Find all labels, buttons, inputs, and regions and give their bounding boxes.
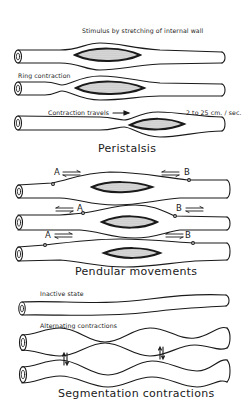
point-b-label: B <box>184 167 190 177</box>
peristalsis-tube-1 <box>15 43 226 70</box>
pendular-tube-1 <box>16 172 231 205</box>
speed-label: 2 to 25 cm. / sec. <box>186 109 242 116</box>
digestive-motility-diagram <box>0 0 250 402</box>
travel-direction-arrow-icon <box>113 111 129 115</box>
pendular-title: Pendular movements <box>75 265 197 278</box>
point-a-label: A <box>77 203 83 213</box>
inactive-state-label: Inactive state <box>40 290 84 297</box>
contraction-travels-label: Contraction travels <box>48 109 109 116</box>
segmentation-title: Segmentation contractions <box>58 387 214 400</box>
ring-contraction-label: Ring contraction <box>18 72 71 79</box>
point-a-label: A <box>45 230 51 240</box>
point-a-label: A <box>54 167 60 177</box>
point-b-label: B <box>185 230 191 240</box>
peristalsis-tube-2 <box>15 76 226 100</box>
point-b-label: B <box>176 203 182 213</box>
segmentation-tube-inactive <box>19 295 229 316</box>
peristalsis-title: Peristalsis <box>98 142 156 155</box>
alternating-contractions-label: Alternating contractions <box>40 322 117 329</box>
pendular-tube-3 <box>16 239 231 267</box>
segmentation-tube-alternating-2 <box>20 360 231 387</box>
stimulus-label: Stimulus by stretching of internal wall <box>82 27 203 34</box>
segmentation-tube-alternating-1 <box>20 327 231 356</box>
